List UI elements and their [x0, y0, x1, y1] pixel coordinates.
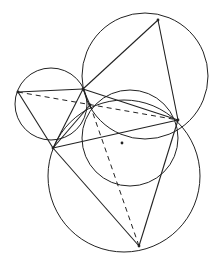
point-T	[157, 19, 160, 22]
segment-AT	[83, 20, 158, 89]
segment-TR	[158, 20, 178, 120]
geometry-diagram	[0, 0, 211, 262]
point-N	[121, 142, 124, 145]
point-B	[138, 245, 141, 248]
segment-PA	[18, 89, 83, 92]
segment-CB	[53, 148, 139, 246]
point-A	[82, 88, 85, 91]
point-R	[177, 119, 180, 122]
point-P	[17, 91, 20, 94]
dashed-segment-MB	[90, 105, 139, 246]
point-M	[89, 104, 92, 107]
point-C	[52, 147, 55, 150]
segment-PC	[18, 92, 53, 148]
